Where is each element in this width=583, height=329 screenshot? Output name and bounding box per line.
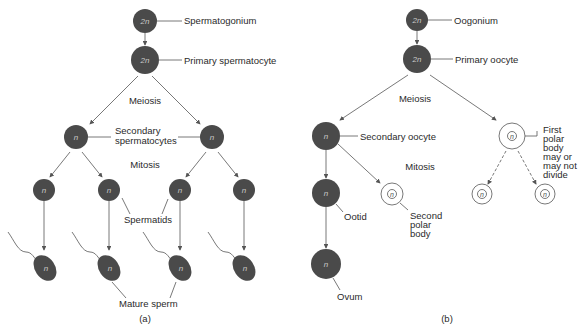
svg-text:n: n bbox=[543, 191, 547, 198]
svg-text:n: n bbox=[210, 133, 215, 142]
first-polar-body-label-6: divide bbox=[543, 169, 568, 180]
svg-text:n: n bbox=[243, 264, 248, 273]
primary-oocyte-label: Primary oocyte bbox=[455, 54, 518, 65]
svg-text:n: n bbox=[390, 191, 394, 198]
mitosis-label-b: Mitosis bbox=[405, 161, 435, 172]
oogonium-label: Oogonium bbox=[454, 15, 498, 26]
secondary-oocyte-label: Secondary oocyte bbox=[360, 131, 436, 142]
caption-a: (a) bbox=[139, 313, 151, 324]
svg-text:n: n bbox=[480, 191, 484, 198]
first-polar-body: n bbox=[499, 123, 525, 149]
svg-text:2n: 2n bbox=[140, 56, 150, 65]
second-polar-body: n bbox=[381, 183, 403, 205]
svg-text:2n: 2n bbox=[412, 55, 422, 64]
svg-text:n: n bbox=[107, 186, 112, 195]
caption-b: (b) bbox=[441, 313, 453, 324]
mature-sperm-label: Mature sperm bbox=[119, 298, 178, 309]
svg-text:n: n bbox=[324, 132, 329, 141]
svg-text:n: n bbox=[324, 260, 329, 269]
meiosis-label-b: Meiosis bbox=[399, 93, 431, 104]
mitosis-label-a: Mitosis bbox=[130, 159, 160, 170]
secondary-spermatocytes-label-2: spermatocytes bbox=[115, 135, 177, 146]
sperm-1: n bbox=[8, 232, 61, 285]
primary-spermatocyte-label: Primary spermatocyte bbox=[184, 55, 276, 66]
first-polar-body-daughter-2: n bbox=[535, 184, 555, 204]
svg-text:n: n bbox=[242, 186, 247, 195]
panel-b-oogenesis: 2n Oogonium 2n Primary oocyte Meiosis n … bbox=[311, 9, 577, 324]
ovum-label: Ovum bbox=[337, 291, 362, 302]
svg-text:n: n bbox=[179, 264, 184, 273]
svg-text:n: n bbox=[44, 264, 49, 273]
sperm-4: n bbox=[208, 232, 260, 285]
svg-text:n: n bbox=[178, 186, 183, 195]
first-polar-body-daughter-1: n bbox=[472, 184, 492, 204]
panel-a-spermatogenesis: 2n Spermatogonium 2n Primary spermatocyt… bbox=[8, 9, 276, 324]
svg-text:n: n bbox=[108, 264, 113, 273]
second-polar-body-label-3: body bbox=[410, 228, 431, 239]
svg-text:2n: 2n bbox=[140, 17, 150, 26]
svg-text:n: n bbox=[324, 189, 329, 198]
svg-text:2n: 2n bbox=[412, 16, 422, 25]
svg-text:n: n bbox=[42, 186, 47, 195]
svg-text:n: n bbox=[510, 133, 514, 140]
sperm-3: n bbox=[143, 232, 196, 285]
sperm-2: n bbox=[72, 232, 125, 285]
spermatogonium-label: Spermatogonium bbox=[184, 15, 256, 26]
spermatids-label: Spermatids bbox=[124, 214, 172, 225]
ootid-label: Ootid bbox=[344, 211, 367, 222]
svg-text:n: n bbox=[74, 133, 79, 142]
gametogenesis-diagram: 2n Spermatogonium 2n Primary spermatocyt… bbox=[0, 0, 583, 329]
meiosis-label-a: Meiosis bbox=[129, 95, 161, 106]
